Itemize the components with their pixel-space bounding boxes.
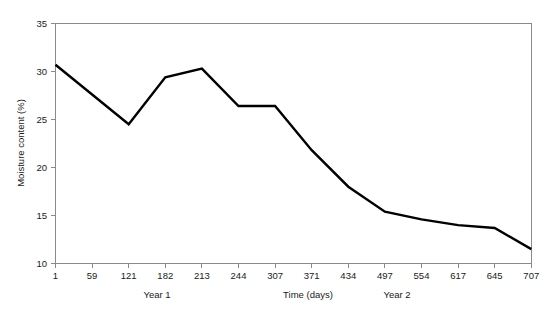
x-tick-label-307: 307 [267,270,283,281]
x-axis-ticks [56,264,532,269]
x-tick-label-554: 554 [414,270,430,281]
y-tick-label-30: 30 [36,66,47,77]
x-tick-label-1: 1 [53,270,58,281]
x-tick-label-121: 121 [121,270,137,281]
y-axis-ticks [51,24,56,264]
x-tick-label-497: 497 [377,270,393,281]
x-tick-label-59: 59 [87,270,98,281]
x-tick-label-371: 371 [304,270,320,281]
x-tick-label-707: 707 [523,270,539,281]
year-1-label: Year 1 [143,289,170,300]
x-tick-label-213: 213 [194,270,210,281]
y-tick-label-20: 20 [36,162,47,173]
y-tick-label-25: 25 [36,114,47,125]
year-2-label: Year 2 [383,289,410,300]
moisture-content-series-line [56,65,532,249]
y-axis-tick-labels: 35 30 25 20 15 10 [36,18,47,269]
x-tick-label-645: 645 [487,270,503,281]
x-tick-label-617: 617 [450,270,466,281]
chart-container: 35 30 25 20 15 10 Moisture content (%) [0,0,557,316]
y-tick-label-15: 15 [36,210,47,221]
x-axis-tick-labels: 1 59 121 182 213 244 307 371 434 497 554… [53,270,539,281]
x-tick-label-434: 434 [340,270,356,281]
y-tick-label-35: 35 [36,18,47,29]
y-tick-label-10: 10 [36,258,47,269]
x-tick-label-182: 182 [157,270,173,281]
y-axis-title: Moisture content (%) [15,99,26,187]
moisture-content-line-chart: 35 30 25 20 15 10 Moisture content (%) [0,0,557,316]
x-axis-title: Time (days) [283,289,333,300]
x-tick-label-244: 244 [231,270,247,281]
axes-frame [56,23,532,264]
